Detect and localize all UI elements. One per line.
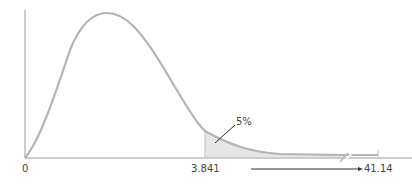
x-tick-observed: 41.14 (364, 163, 393, 174)
arrow-head-icon (358, 167, 363, 171)
chi-square-chart (0, 0, 412, 186)
density-curve (25, 13, 378, 158)
x-tick-zero: 0 (22, 163, 28, 174)
tail-area-label: 5% (236, 116, 252, 127)
x-tick-critical: 3.841 (191, 163, 220, 174)
